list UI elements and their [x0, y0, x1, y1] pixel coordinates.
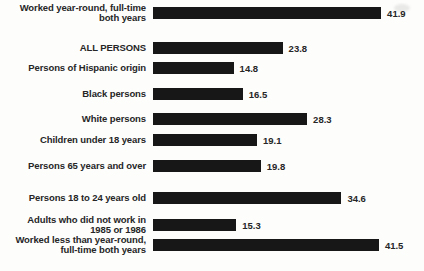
category-label: ALL PERSONS [0, 43, 152, 54]
category-label: Persons of Hispanic origin [0, 63, 152, 74]
bar [153, 62, 234, 74]
value-label: 28.3 [313, 114, 332, 125]
category-label: Persons 18 to 24 years old [0, 193, 152, 204]
bar-row: Persons 65 years and over 19.8 [0, 153, 424, 179]
category-label: Worked year-round, full-time both years [0, 3, 152, 24]
bar [153, 7, 381, 19]
bar [153, 134, 257, 146]
category-label: Persons 65 years and over [0, 161, 152, 172]
category-label: Worked less than year-round, full-time b… [0, 235, 152, 256]
bar-row: Children under 18 years 19.1 [0, 127, 424, 153]
bar [153, 42, 283, 54]
bar [153, 219, 236, 231]
value-label: 15.3 [242, 220, 261, 231]
bar [153, 160, 261, 172]
bar [153, 239, 379, 251]
value-label: 19.1 [263, 135, 282, 146]
bar-row: Black persons 16.5 [0, 81, 424, 107]
value-label: 23.8 [289, 43, 308, 54]
value-label: 14.8 [240, 63, 259, 74]
bar [153, 192, 341, 204]
bar-row: Worked year-round, full-time both years … [0, 0, 424, 26]
bar-row: Worked less than year-round, full-time b… [0, 232, 424, 258]
bar-row: Persons of Hispanic origin 14.8 [0, 55, 424, 81]
category-label: Black persons [0, 89, 152, 100]
category-label: Children under 18 years [0, 135, 152, 146]
bar-row: Persons 18 to 24 years old 34.6 [0, 185, 424, 211]
bar [153, 113, 307, 125]
value-label: 41.9 [387, 8, 406, 19]
bar-chart: ALL PERSONS 23.8 Persons of Hispanic ori… [0, 0, 424, 271]
value-label: 34.6 [347, 193, 366, 204]
bar [153, 88, 243, 100]
value-label: 16.5 [249, 89, 268, 100]
value-label: 41.5 [385, 240, 404, 251]
value-label: 19.8 [267, 161, 286, 172]
category-label: White persons [0, 114, 152, 125]
